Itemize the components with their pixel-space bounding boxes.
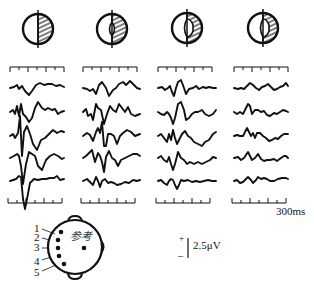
erp-trace-col4-electrode1	[234, 83, 288, 90]
time-scale-bottom	[8, 198, 286, 203]
waveforms	[10, 80, 288, 209]
lesion-icons	[23, 9, 278, 48]
erp-trace-col4-electrode3	[234, 128, 288, 141]
amplitude-scale-label: 2.5μV	[193, 239, 221, 251]
reference-label: 参考	[70, 230, 93, 243]
electrode-label-3: 3	[34, 241, 40, 253]
time-scale-top-2	[83, 67, 137, 72]
electrode-2	[56, 238, 61, 243]
time-scale-bottom-2	[81, 198, 135, 203]
erp-trace-col2-electrode3	[83, 122, 140, 146]
erp-trace-col3-electrode1	[158, 80, 216, 96]
electrode-5-leader	[42, 265, 56, 271]
lesion-hatch	[187, 13, 202, 43]
electrode-3	[56, 246, 61, 251]
erp-trace-col4-electrode4	[234, 152, 288, 161]
amplitude-plus-sign: +	[179, 233, 184, 243]
electrode-1	[59, 230, 64, 235]
time-scale-top-4	[234, 67, 288, 72]
electrode-5	[62, 262, 67, 267]
lesion-icon-2	[97, 10, 127, 48]
erp-trace-col4-electrode2	[234, 104, 288, 116]
erp-trace-col1-electrode3	[10, 116, 64, 156]
lesion-icon-4	[248, 9, 278, 47]
erp-trace-col3-electrode2	[158, 102, 216, 124]
erp-trace-col3-electrode5	[158, 179, 216, 189]
erp-trace-col4-electrode5	[234, 177, 288, 183]
erp-figure: 300ms + – 2.5μV 参考 1 2 3 4 5	[0, 0, 314, 285]
erp-trace-col1-electrode2	[10, 102, 64, 122]
lesion-hatch	[263, 13, 278, 43]
electrode-4	[57, 254, 62, 259]
erp-trace-col3-electrode4	[158, 152, 216, 170]
erp-trace-col1-electrode1	[10, 83, 64, 95]
erp-trace-col3-electrode3	[158, 130, 216, 146]
time-scale-bottom-3	[156, 198, 210, 203]
reference-electrode	[82, 246, 87, 251]
head-electrode-map: 参考 1 2 3 4 5	[34, 216, 104, 279]
time-scale-top	[10, 67, 288, 72]
electrode-label-5: 5	[34, 266, 40, 278]
lesion-hatch	[112, 14, 127, 44]
time-scale-top-3	[158, 67, 212, 72]
time-scale-top-1	[10, 67, 64, 72]
amplitude-scale: + – 2.5μV	[177, 233, 221, 261]
lesion-hatch	[38, 14, 53, 44]
erp-trace-col2-electrode1	[83, 81, 140, 96]
erp-trace-col2-electrode4	[83, 150, 140, 172]
lesion-icon-3	[172, 9, 202, 47]
time-scale-bottom-1	[8, 198, 62, 203]
erp-trace-col2-electrode2	[83, 104, 140, 124]
time-scale-bottom-4	[232, 198, 286, 203]
erp-trace-col1-electrode5	[10, 176, 64, 209]
time-scale-label: 300ms	[276, 205, 305, 217]
lesion-icon-1	[23, 10, 53, 48]
erp-trace-col2-electrode5	[83, 177, 140, 187]
amplitude-minus-sign: –	[177, 250, 184, 261]
